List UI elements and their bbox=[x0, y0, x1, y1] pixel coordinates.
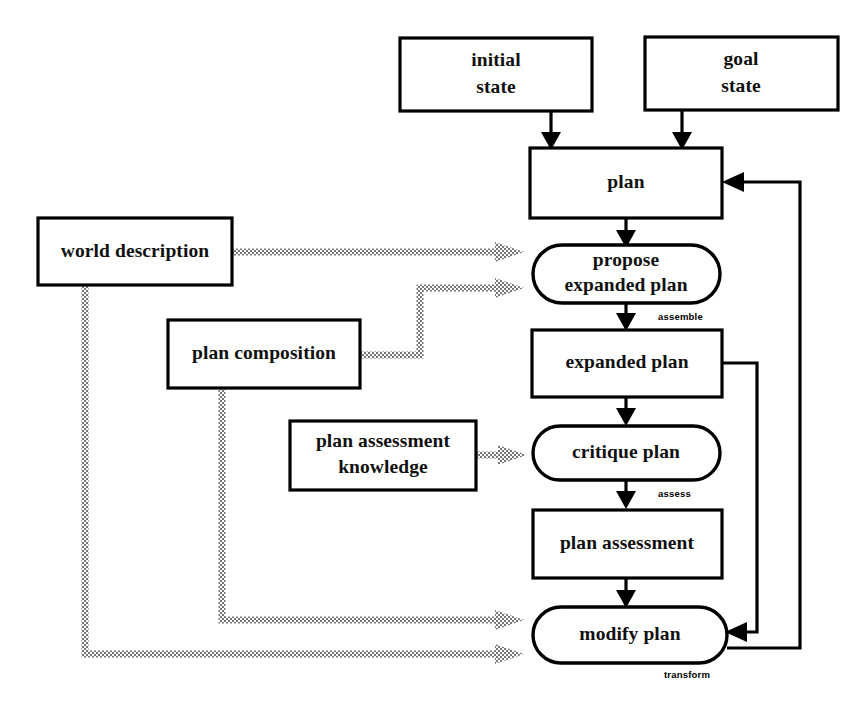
edge-label-assemble: assemble bbox=[658, 311, 703, 322]
node-propose-expanded-plan-label-line2: expanded plan bbox=[564, 274, 687, 295]
node-plan[interactable]: plan bbox=[530, 148, 722, 218]
edge-initial-state-to-plan bbox=[541, 111, 561, 150]
edge-plan-assessment-to-modify bbox=[616, 578, 636, 608]
node-plan-composition-label: plan composition bbox=[192, 342, 336, 363]
edge-goal-state-to-plan bbox=[672, 110, 692, 150]
node-plan-assessment-knowledge-label-line1: plan assessment bbox=[316, 430, 451, 451]
node-plan-assessment-knowledge[interactable]: plan assessment knowledge bbox=[290, 421, 476, 490]
edge-expanded-plan-to-critique bbox=[616, 397, 636, 426]
node-expanded-plan-label: expanded plan bbox=[565, 351, 688, 372]
node-plan-assessment-label: plan assessment bbox=[560, 532, 695, 553]
edge-label-transform: transform bbox=[664, 669, 710, 680]
edge-modify-plan-feedback-to-plan bbox=[722, 172, 800, 648]
node-critique-plan-label: critique plan bbox=[572, 441, 680, 462]
node-world-description-label: world description bbox=[61, 240, 210, 261]
node-critique-plan[interactable]: critique plan bbox=[533, 426, 720, 480]
node-plan-assessment-knowledge-label-line2: knowledge bbox=[338, 456, 428, 477]
node-propose-expanded-plan[interactable]: propose expanded plan bbox=[533, 245, 720, 303]
edge-expanded-plan-feedback-to-modify bbox=[722, 363, 757, 642]
diagram-canvas: initial state goal state plan propose ex… bbox=[0, 0, 867, 711]
node-expanded-plan[interactable]: expanded plan bbox=[532, 330, 722, 397]
node-modify-plan[interactable]: modify plan bbox=[533, 607, 727, 663]
node-initial-state-label-line2: state bbox=[476, 76, 516, 97]
node-plan-assessment[interactable]: plan assessment bbox=[533, 510, 722, 578]
node-plan-composition[interactable]: plan composition bbox=[168, 320, 360, 388]
node-goal-state[interactable]: goal state bbox=[645, 37, 838, 110]
edge-world-description-to-propose bbox=[232, 242, 524, 262]
edge-label-assess: assess bbox=[658, 488, 691, 499]
edge-plan-composition-to-propose bbox=[360, 278, 524, 355]
node-initial-state-label-line1: initial bbox=[471, 49, 521, 70]
node-world-description[interactable]: world description bbox=[38, 218, 232, 285]
node-goal-state-label-line1: goal bbox=[723, 48, 759, 69]
node-goal-state-label-line2: state bbox=[721, 75, 761, 96]
edge-propose-to-expanded-plan bbox=[616, 303, 636, 331]
node-initial-state[interactable]: initial state bbox=[400, 38, 592, 111]
edge-assessment-knowledge-to-critique bbox=[476, 445, 527, 465]
node-modify-plan-label: modify plan bbox=[579, 623, 680, 644]
node-propose-expanded-plan-label-line1: propose bbox=[593, 249, 660, 270]
edge-critique-to-plan-assessment bbox=[616, 480, 636, 509]
diagram-svg: initial state goal state plan propose ex… bbox=[0, 0, 867, 711]
node-plan-label: plan bbox=[607, 171, 644, 192]
